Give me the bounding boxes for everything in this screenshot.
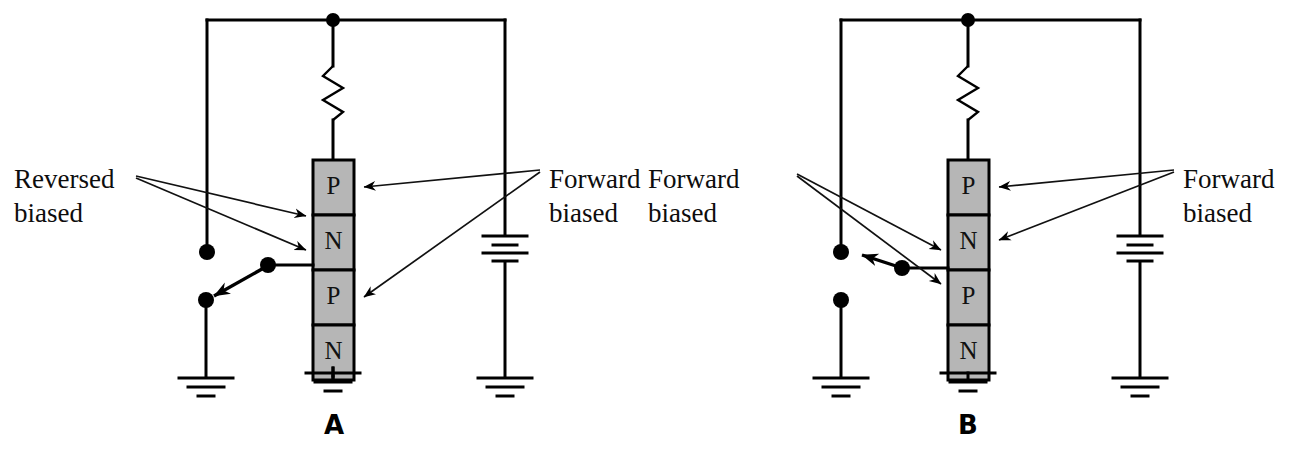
pnpn-stack-a: P N P N [313,160,354,380]
panel-a: P N P N Reversed biased Forward [14,13,641,440]
left-callout-arrow-1-a [136,176,306,216]
left-callout-arrow-2-a [136,178,306,250]
layer-label-n1-b: N [959,227,977,254]
left-callout-arrow-2-b [797,176,941,284]
right-callout-arrow-2-b [999,172,1174,240]
panel-b: P N P N Forward biased Forward biased [648,13,1275,440]
gate-arrow-a [214,269,262,296]
left-terminal-dot-b [833,244,849,260]
ground-left-b [814,378,868,396]
ground-right-a [478,378,532,396]
left-callout-arrow-1-b [797,174,941,250]
resistor-symbol-b [958,66,978,120]
layer-label-p1-b: P [962,172,976,199]
ground-right-b [1113,378,1167,396]
right-callout-arrow-1-a [364,170,540,187]
layer-label-p2-a: P [327,282,341,309]
gate-arrow-b [862,255,896,266]
layer-label-p2-b: P [962,282,976,309]
right-callout-line2-b: biased [1183,198,1252,228]
right-callout-line2-a: biased [549,198,618,228]
battery-symbol-b [1118,236,1162,261]
left-callout-line2-b: biased [648,198,717,228]
left-callout-line1-a: Reversed [14,164,115,194]
right-callout-line1-a: Forward [549,164,641,194]
figure-canvas: P N P N Reversed biased Forward [0,0,1295,463]
ground-left-a [179,378,233,396]
right-callout-arrow-1-b [999,170,1174,187]
panel-label-b: B [958,410,978,440]
resistor-symbol-a [323,66,343,120]
layer-label-n2-b: N [959,337,977,364]
left-terminal-dot-a [199,244,215,260]
layer-label-p1-a: P [327,172,341,199]
layer-label-n1-a: N [324,227,342,254]
panel-label-a: A [324,410,344,440]
battery-symbol-a [483,236,527,261]
left-callout-line2-a: biased [14,198,83,228]
gate-mid-dot-b [894,260,910,276]
right-callout-line1-b: Forward [1183,164,1275,194]
circuit-diagram-svg: P N P N Reversed biased Forward [0,0,1295,463]
pnpn-stack-b: P N P N [948,160,989,380]
layer-label-n2-a: N [324,337,342,364]
left-callout-line1-b: Forward [648,164,740,194]
